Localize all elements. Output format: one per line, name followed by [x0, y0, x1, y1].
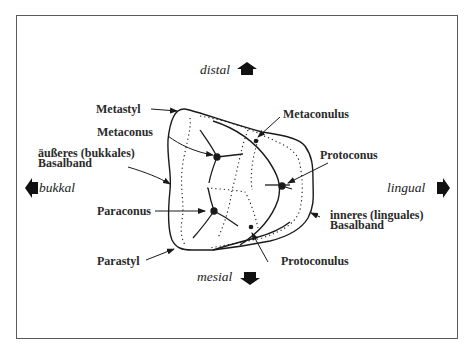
label-metaconus: Metaconus [97, 127, 153, 138]
label-parastyl: Parastyl [97, 256, 140, 267]
direction-distal-label: distal [200, 62, 230, 77]
label-protoconus: Protoconus [320, 150, 378, 161]
direction-mesial-label: mesial [197, 269, 232, 284]
label-paraconus: Paraconus [97, 206, 151, 217]
arrow-left-icon [25, 178, 38, 198]
label-metastyl: Metastyl [96, 104, 141, 115]
label-inneres-basalband-2: Basalband [330, 220, 384, 231]
arrow-up-icon [237, 62, 257, 76]
arrow-right-icon [437, 178, 450, 198]
direction-lingual-label: lingual [387, 180, 425, 195]
label-protoconulus: Protoconulus [281, 256, 349, 267]
direction-bukkal: bukkal [39, 181, 75, 195]
direction-bukkal-label: bukkal [39, 180, 75, 195]
cusp-protoconulus [249, 225, 254, 230]
arrow-down-icon [240, 272, 260, 286]
direction-mesial: mesial [197, 270, 232, 284]
cusp-metaconulus [254, 139, 259, 144]
tooth-outline [168, 109, 313, 250]
direction-lingual: lingual [387, 181, 425, 195]
cusp-metaconus [200, 130, 243, 183]
label-metaconulus: Metaconulus [283, 109, 349, 120]
label-aeusseres-basalband-2: Basalband [38, 158, 92, 169]
direction-distal: distal [200, 63, 230, 77]
leader-arrows [128, 109, 328, 262]
tooth-diagram [0, 0, 474, 356]
